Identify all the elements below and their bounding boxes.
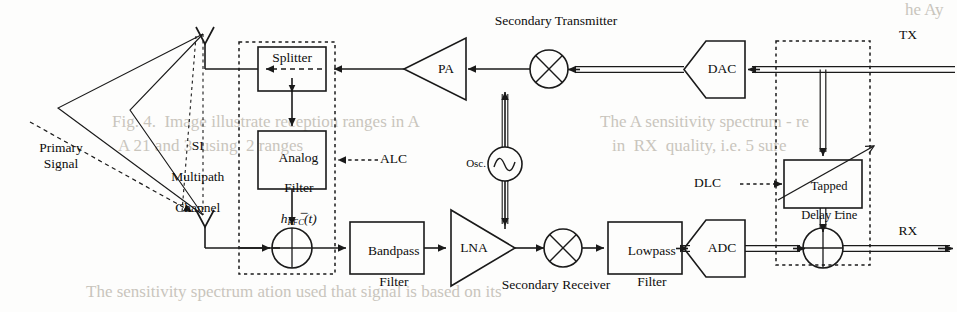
summing-junction-digital-icon: [803, 228, 843, 268]
adc-to-summer-bus: [745, 246, 805, 252]
lowpass-filter-block: [608, 222, 682, 274]
lowpass-to-adc-bus: [676, 246, 690, 252]
bandpass-filter-block: [350, 222, 424, 274]
analog-filter-block: [258, 131, 326, 189]
adjustable-parameter-arrow-icon: [778, 146, 874, 200]
diagram-vectors: [0, 0, 957, 312]
si-direct-path: [182, 34, 203, 215]
alc-dashed-boundary: [239, 42, 335, 274]
oscillator-icon: [488, 147, 522, 181]
adc-block: [684, 220, 745, 277]
tx-input-bus: [748, 67, 955, 73]
figure-canvas: he Ay Fig. 4. Image illustrate reception…: [0, 0, 957, 312]
rx-antenna-icon: [196, 210, 280, 248]
mixer-tx-icon: [530, 50, 568, 88]
tx-tap-to-delayline-bus: [820, 70, 826, 157]
primary-signal-arrow: [30, 122, 192, 212]
si-multipath-rays: [58, 34, 203, 215]
rx-output-bus: [843, 246, 953, 252]
summing-junction-analog-icon: [272, 228, 312, 268]
dac-to-tx-mixer-bus: [568, 67, 684, 73]
mixer-rx-icon: [544, 229, 582, 267]
pa-amplifier: [404, 38, 466, 100]
tapped-delay-line-block: [784, 160, 862, 208]
tx-antenna-icon: [196, 27, 258, 69]
dac-block: [684, 41, 745, 98]
